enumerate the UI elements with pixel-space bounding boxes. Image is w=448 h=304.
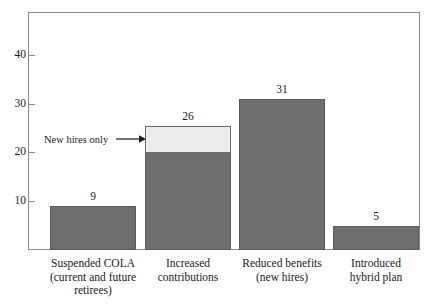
y-tick-label-10: 10 xyxy=(0,195,26,207)
annotation-arrow-icon xyxy=(116,132,148,146)
bar-increased-contributions-base[interactable] xyxy=(145,152,231,250)
x-axis-label-introduced-hybrid-plan: Introduced hybrid plan xyxy=(321,257,431,284)
y-tick-mark-40 xyxy=(28,55,35,56)
bar-chart: 10 20 30 40 9 26 New hires only 31 5 Sus… xyxy=(0,0,448,304)
bar-increased-contributions-new-hires[interactable] xyxy=(145,126,231,153)
x-axis-label-line: hybrid plan xyxy=(321,271,431,285)
y-tick-label-20: 20 xyxy=(0,146,26,158)
y-tick-mark-30 xyxy=(28,104,35,105)
bar-value-reduced-benefits: 31 xyxy=(239,84,325,96)
y-tick-label-30: 30 xyxy=(0,98,26,110)
bar-value-suspended-cola: 9 xyxy=(50,191,136,203)
y-tick-label-40: 40 xyxy=(0,49,26,61)
bar-reduced-benefits[interactable] xyxy=(239,99,325,250)
bar-suspended-cola[interactable] xyxy=(50,206,136,250)
bar-introduced-hybrid-plan[interactable] xyxy=(333,226,419,250)
x-axis-label-line: retirees) xyxy=(30,284,156,298)
annotation-new-hires-only: New hires only xyxy=(44,134,108,145)
x-axis-label-line: Introduced xyxy=(321,257,431,271)
bar-value-introduced-hybrid-plan: 5 xyxy=(333,211,419,223)
bar-value-increased-contributions: 26 xyxy=(145,111,231,123)
y-tick-mark-10 xyxy=(28,201,35,202)
y-tick-mark-20 xyxy=(28,152,35,153)
